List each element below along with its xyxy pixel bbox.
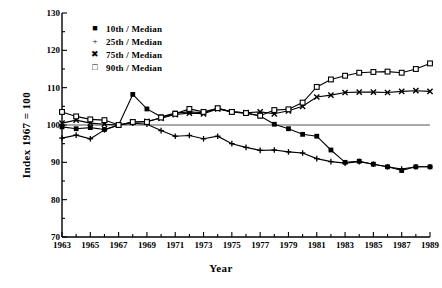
chart-figure: Index 1967 = 100 Year 130120110100908070… (0, 0, 442, 288)
series-plus (59, 120, 433, 172)
series-cross (59, 88, 432, 128)
plot-area (0, 0, 442, 288)
series-filled-square (60, 92, 433, 173)
series-open-square (60, 61, 433, 127)
